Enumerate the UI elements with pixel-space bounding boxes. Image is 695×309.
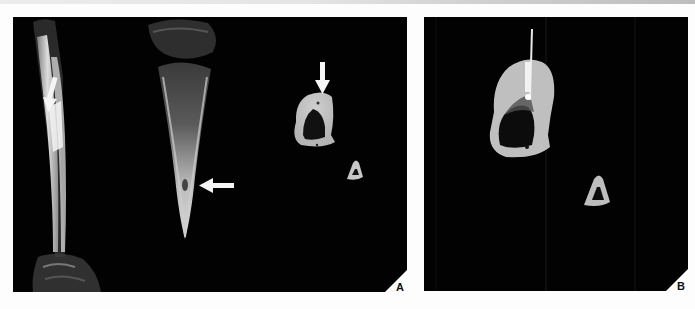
panel-label-a: A xyxy=(396,282,404,293)
panel-label-b: B xyxy=(677,281,685,292)
axial-cross-section-large xyxy=(490,59,554,157)
mri-image-a xyxy=(13,17,407,292)
figure-panel-a xyxy=(13,17,407,292)
axial-cross-section-large xyxy=(294,92,335,146)
axial-cross-section-small xyxy=(584,176,610,207)
left-long-bone xyxy=(33,19,101,292)
ct-image-b xyxy=(424,17,688,291)
axial-cross-section-small xyxy=(347,161,363,180)
arrow-left-icon xyxy=(199,178,234,193)
figure-panel-b xyxy=(424,17,688,291)
arrow-down-icon xyxy=(315,62,330,94)
needle-icon xyxy=(525,29,532,100)
tibia-long-axis xyxy=(148,19,216,239)
scan-edge-band xyxy=(0,0,695,4)
